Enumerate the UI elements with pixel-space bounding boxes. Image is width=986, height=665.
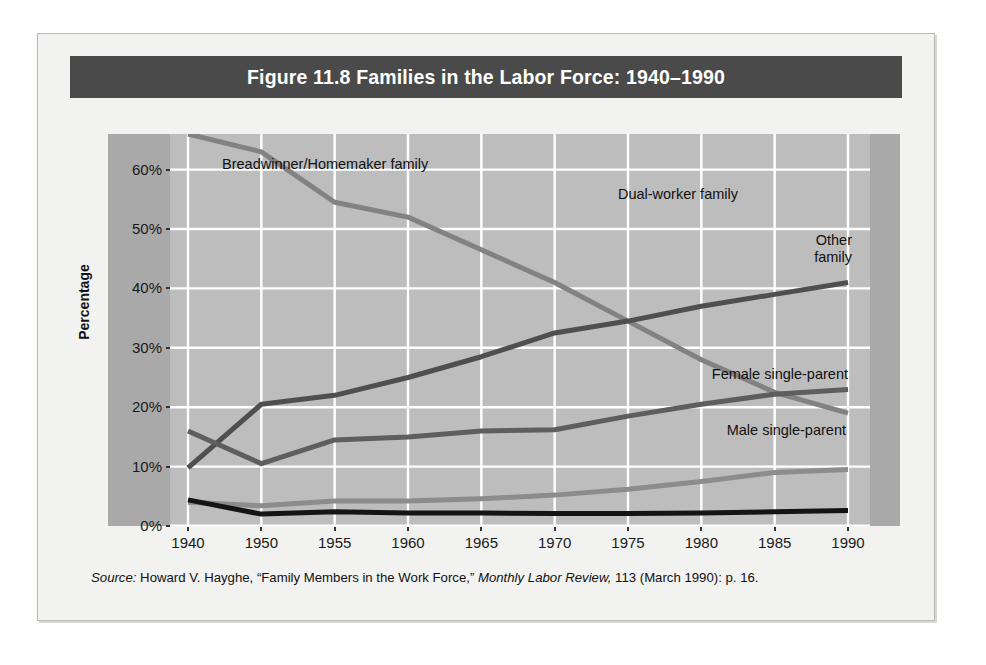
series-label-other-family-line1: Other (816, 232, 852, 248)
x-tick-mark (554, 527, 556, 531)
series-label-breadwinner: Breadwinner/Homemaker family (222, 156, 428, 173)
page-root: Figure 11.8 Families in the Labor Force:… (0, 0, 986, 665)
source-note: Source: Howard V. Hayghe, “Family Member… (91, 570, 759, 585)
axis-band-right (870, 134, 900, 526)
x-tick-mark (480, 527, 482, 531)
x-tick-mark (260, 527, 262, 531)
series-label-other-family: Other family (762, 232, 852, 265)
y-tick-label: 30% (110, 339, 162, 356)
y-tick-label: 0% (110, 517, 162, 534)
x-tick-label: 1955 (300, 534, 370, 551)
y-tick-label: 10% (110, 458, 162, 475)
y-tick-label: 60% (110, 161, 162, 178)
x-tick-mark (187, 527, 189, 531)
x-tick-label: 1980 (666, 534, 736, 551)
figure-card: Figure 11.8 Families in the Labor Force:… (37, 33, 935, 621)
source-body-2: 113 (March 1990): p. 16. (611, 570, 758, 585)
x-tick-mark (334, 527, 336, 531)
x-tick-mark (847, 527, 849, 531)
x-tick-label: 1950 (226, 534, 296, 551)
series-label-dual-worker: Dual-worker family (618, 186, 738, 203)
x-tick-label: 1965 (446, 534, 516, 551)
plot-panel: Breadwinner/Homemaker family Dual-worker… (170, 134, 870, 526)
x-tick-label: 1990 (813, 534, 883, 551)
x-tick-mark (700, 527, 702, 531)
figure-title-bar: Figure 11.8 Families in the Labor Force:… (70, 56, 902, 98)
series-label-male-single-parent: Male single-parent (727, 422, 846, 439)
series-label-female-single-parent: Female single-parent (712, 366, 848, 383)
source-body-1: Howard V. Hayghe, “Family Members in the… (136, 570, 478, 585)
series-label-other-family-line2: family (814, 249, 852, 265)
source-prefix: Source: (91, 570, 136, 585)
x-tick-label: 1960 (373, 534, 443, 551)
y-tick-label: 50% (110, 220, 162, 237)
y-tick-label: 40% (110, 279, 162, 296)
chart-region: Percentage 0%10%20%30%40%50%60% 19401950… (38, 119, 936, 549)
y-axis-title: Percentage (76, 242, 92, 362)
source-publication: Monthly Labor Review, (478, 570, 611, 585)
x-tick-label: 1940 (153, 534, 223, 551)
x-tick-label: 1970 (520, 534, 590, 551)
x-tick-mark (627, 527, 629, 531)
x-tick-label: 1975 (593, 534, 663, 551)
x-tick-mark (407, 527, 409, 531)
figure-title: Figure 11.8 Families in the Labor Force:… (247, 66, 725, 89)
x-tick-label: 1985 (740, 534, 810, 551)
x-tick-mark (774, 527, 776, 531)
data-series-lines (170, 134, 870, 526)
y-tick-label: 20% (110, 398, 162, 415)
